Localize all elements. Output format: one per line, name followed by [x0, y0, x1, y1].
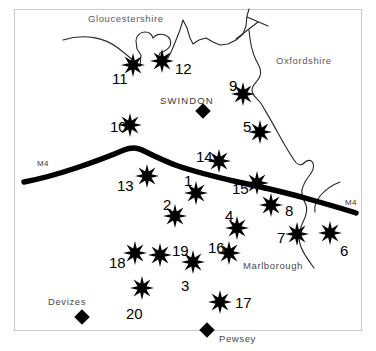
- site-number-label: 11: [112, 71, 128, 86]
- site-number-label: 17: [235, 295, 252, 310]
- site-number-label: 4: [225, 208, 233, 223]
- town-label-marlborough: Marlborough: [243, 261, 303, 271]
- site-number-label: 2: [163, 197, 171, 212]
- town-label-pewsey: Pewsey: [219, 334, 256, 344]
- county-label-gloucestershire: Gloucestershire: [88, 14, 164, 24]
- site-number-label: 16: [208, 240, 225, 255]
- county-label-oxfordshire: Oxfordshire: [276, 56, 332, 66]
- site-number-label: 3: [181, 278, 189, 293]
- site-number-label: 18: [109, 255, 126, 270]
- site-number-label: 7: [277, 230, 285, 245]
- site-number-label: 15: [232, 181, 249, 196]
- site-number-label: 14: [196, 149, 213, 164]
- town-label-swindon: SWINDON: [160, 96, 214, 106]
- road-label-m4-east: M4: [345, 199, 357, 207]
- site-number-label: 13: [117, 178, 134, 193]
- site-number-label: 8: [285, 203, 293, 218]
- site-number-label: 9: [229, 78, 237, 93]
- site-number-label: 6: [340, 243, 348, 258]
- site-number-label: 1: [184, 173, 192, 188]
- site-number-label: 10: [110, 119, 127, 134]
- site-number-label: 20: [126, 306, 143, 321]
- site-number-label: 12: [175, 61, 192, 76]
- town-label-devizes: Devizes: [48, 297, 86, 307]
- site-number-label: 5: [243, 119, 251, 134]
- site-number-label: 19: [172, 243, 189, 258]
- map-figure: Gloucestershire Oxfordshire SWINDON Marl…: [0, 0, 376, 351]
- road-label-m4-west: M4: [37, 160, 49, 168]
